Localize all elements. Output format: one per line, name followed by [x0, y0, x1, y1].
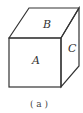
figure-caption: ( a )	[30, 99, 48, 109]
face-label-top: B	[42, 18, 51, 31]
face-label-right: C	[68, 42, 77, 55]
cube-diagram: B A C ( a )	[0, 0, 83, 113]
face-label-front: A	[31, 54, 40, 67]
